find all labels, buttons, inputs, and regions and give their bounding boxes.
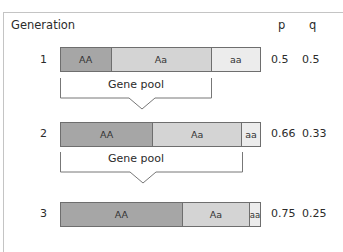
p-header: p bbox=[278, 19, 285, 32]
segment-label: aa bbox=[230, 54, 242, 65]
segment-label: Aa bbox=[210, 209, 222, 220]
genotype-bar-gen-1: AA Aa aa bbox=[60, 47, 261, 72]
q-value: 0.25 bbox=[302, 207, 327, 220]
segment-Aa: Aa bbox=[182, 203, 249, 226]
generation-number: 3 bbox=[40, 207, 47, 220]
p-value: 0.75 bbox=[271, 207, 296, 220]
q-value: 0.5 bbox=[302, 53, 320, 66]
segment-label: AA bbox=[115, 209, 128, 220]
generation-number: 2 bbox=[40, 127, 47, 140]
gene-pool-label: Gene pool bbox=[60, 152, 212, 165]
gene-pool-bracket-2: Gene pool bbox=[60, 148, 243, 188]
segment-label: Aa bbox=[191, 129, 203, 140]
segment-AA: AA bbox=[61, 203, 182, 226]
segment-Aa: Aa bbox=[111, 48, 211, 71]
generation-number: 1 bbox=[40, 53, 47, 66]
segment-aa: aa bbox=[241, 123, 260, 146]
segment-AA: AA bbox=[61, 123, 152, 146]
gene-pool-bracket-1: Gene pool bbox=[60, 74, 212, 114]
segment-aa: aa bbox=[211, 48, 261, 71]
segment-label: aa bbox=[245, 129, 257, 140]
q-header: q bbox=[309, 19, 316, 32]
generation-header: Generation bbox=[11, 19, 75, 32]
p-value: 0.5 bbox=[271, 53, 289, 66]
p-value: 0.66 bbox=[271, 127, 296, 140]
segment-label: AA bbox=[79, 54, 92, 65]
genotype-bar-gen-3: AA Aa aa bbox=[60, 202, 261, 227]
segment-label: Aa bbox=[155, 54, 167, 65]
segment-label: AA bbox=[100, 129, 113, 140]
segment-AA: AA bbox=[61, 48, 111, 71]
segment-label: aa bbox=[250, 210, 260, 220]
segment-aa: aa bbox=[249, 203, 260, 226]
gene-pool-label: Gene pool bbox=[60, 78, 212, 91]
q-value: 0.33 bbox=[302, 127, 327, 140]
segment-Aa: Aa bbox=[152, 123, 241, 146]
genotype-bar-gen-2: AA Aa aa bbox=[60, 122, 261, 147]
